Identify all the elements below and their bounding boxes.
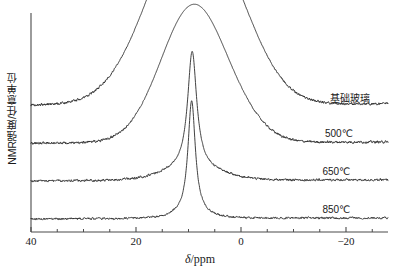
trace-label: 500℃ [325,128,353,139]
x-axis-title-units: /ppm [190,252,215,266]
trace-label: 650℃ [322,166,350,177]
axes-group [31,13,388,232]
trace-label: 基础玻璃 [330,90,370,105]
x-tick-label: 20 [131,235,142,247]
y-axis-title: NMR强度/任意单位 [4,72,20,165]
x-tick-label: 40 [26,235,37,247]
trace-label: 850℃ [322,204,350,215]
spectrum-trace [31,51,388,182]
nmr-spectra-figure: 40200−20 δ/ppm NMR强度/任意单位 基础玻璃500℃650℃85… [0,0,400,274]
spectrum-trace [31,4,388,144]
x-tick-label: −20 [337,235,354,247]
x-tick-label: 0 [238,235,244,247]
spectra-traces-group [31,0,388,220]
x-axis-title: δ/ppm [185,252,215,267]
